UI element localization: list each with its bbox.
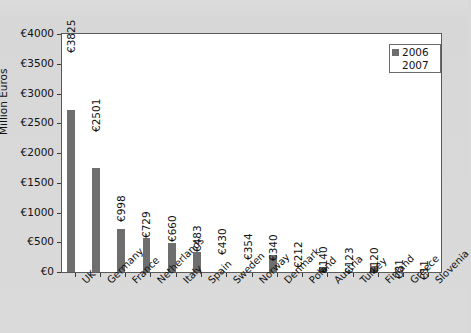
y-axis-tick-label: €500 xyxy=(27,235,54,247)
bar-value-label: €729 xyxy=(140,211,152,238)
legend-label: 2007 xyxy=(402,59,429,72)
bar-value-label: €998 xyxy=(115,195,127,222)
x-axis-tick-mark xyxy=(252,273,253,277)
bar-2006-germany xyxy=(92,168,100,272)
bar-value-label: €120 xyxy=(368,247,380,274)
y-axis-tick-label: €0 xyxy=(41,265,54,277)
bar-value-label: €11 xyxy=(418,260,430,280)
x-axis-tick-mark xyxy=(150,273,151,277)
x-axis-tick-mark xyxy=(302,273,303,277)
x-axis-tick-mark xyxy=(176,273,177,277)
bar-value-label: €3825 xyxy=(65,20,77,53)
y-axis-tick-label: €3000 xyxy=(21,87,54,99)
y-axis-tick-label: €1000 xyxy=(21,206,54,218)
y-axis-tick-label: €2000 xyxy=(21,146,54,158)
bar-value-label: €340 xyxy=(267,234,279,261)
x-axis-tick-mark xyxy=(327,273,328,277)
x-axis-tick-mark xyxy=(201,273,202,277)
y-axis-tick-label: €1500 xyxy=(21,176,54,188)
legend-label: 2006 xyxy=(402,46,429,59)
bar-value-label: €660 xyxy=(166,215,178,242)
bar-2006-uk xyxy=(67,110,75,272)
bar-2007-germany xyxy=(100,123,108,272)
legend-swatch-icon xyxy=(392,49,399,56)
y-axis-tick-label: €4000 xyxy=(21,27,54,39)
legend-item-2006: 2006 xyxy=(392,46,438,59)
chart-legend: 2006 2007 xyxy=(389,44,441,73)
x-axis-tick-mark xyxy=(100,273,101,277)
bar-value-label: €2501 xyxy=(90,99,102,132)
y-axis-title: Million Euros xyxy=(0,69,9,135)
bar-value-label: €354 xyxy=(242,233,254,260)
y-axis-tick-label: €2500 xyxy=(21,116,54,128)
bar-value-label: €140 xyxy=(317,246,329,273)
y-axis-tick-label: €3500 xyxy=(21,57,54,69)
x-axis-tick-mark xyxy=(75,273,76,277)
bar-value-label: €31 xyxy=(393,259,405,279)
bar-value-label: €212 xyxy=(292,242,304,269)
x-axis-tick-mark xyxy=(226,273,227,277)
legend-item-2007: 2007 xyxy=(392,59,438,72)
bar-value-label: €483 xyxy=(191,226,203,253)
bar-value-label: €123 xyxy=(343,247,355,274)
legend-swatch-icon xyxy=(392,62,399,69)
x-axis-tick-mark xyxy=(125,273,126,277)
bar-value-label: €430 xyxy=(216,229,228,256)
x-axis-tick-mark xyxy=(277,273,278,277)
bar-2007-uk xyxy=(75,44,83,272)
